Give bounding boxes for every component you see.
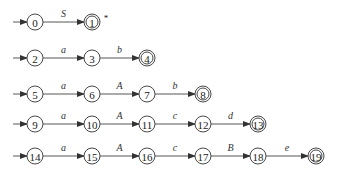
state-label: 6 [89,89,95,101]
transition-label: c [173,142,178,153]
accept-annotation: * [104,13,109,23]
transition-label: a [61,44,66,55]
state-label: 18 [253,151,265,163]
state-label: 17 [198,151,210,163]
transition-label: S [61,8,66,19]
automata-diagram: 0S1*2a3b45a6A7b89a10A11c12d1314a15A16c17… [0,0,342,173]
state-label: 4 [144,53,150,65]
state-label: 7 [144,89,150,101]
state-label: 12 [198,119,209,131]
state-label: 9 [32,119,38,131]
state-label: 3 [89,53,95,65]
transition-label: a [61,110,66,121]
transition-label: b [117,44,122,55]
transition-label: A [115,80,123,91]
state-label: 16 [142,151,154,163]
state-label: 5 [32,89,38,101]
state-label: 0 [32,17,38,29]
transition-label: b [173,80,178,91]
state-label: 11 [142,119,153,131]
state-label: 13 [253,119,265,131]
state-label: 2 [32,53,38,65]
state-label: 14 [30,151,42,163]
transition-label: a [61,142,66,153]
state-label: 1 [89,17,95,29]
transition-label: A [115,110,123,121]
transition-label: a [61,80,66,91]
state-label: 10 [87,119,99,131]
transition-label: d [228,110,234,121]
transition-label: B [227,142,233,153]
transition-label: c [173,110,178,121]
transition-label: A [115,142,123,153]
transition-label: e [285,142,290,153]
state-label: 19 [311,151,323,163]
state-label: 8 [200,89,206,101]
state-label: 15 [87,151,99,163]
